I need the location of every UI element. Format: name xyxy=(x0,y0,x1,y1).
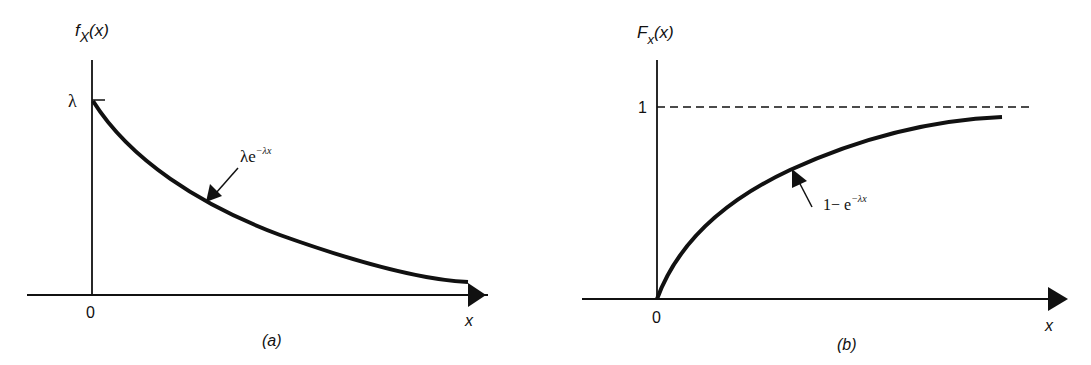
y-tick-label: 1 xyxy=(638,99,647,116)
caption: (a) xyxy=(262,332,282,349)
curve-label: λe−λx xyxy=(240,145,272,166)
y-tick-label: λ xyxy=(68,91,77,111)
annotation-arrowhead-icon xyxy=(792,169,807,188)
annotation-arrowhead-icon xyxy=(206,184,222,202)
y-axis-label: fX(x) xyxy=(75,21,109,45)
caption: (b) xyxy=(837,336,857,353)
annotation-arrow xyxy=(216,168,238,193)
x-axis-label: x xyxy=(464,312,474,329)
x-axis-arrow-icon xyxy=(1048,287,1068,311)
x-axis-arrow-icon xyxy=(468,283,486,307)
panel-a: fX(x) λ 0 x (a) λe−λx xyxy=(27,21,488,349)
origin-label: 0 xyxy=(652,309,661,326)
origin-label: 0 xyxy=(86,304,95,321)
y-axis-label: Fx(x) xyxy=(637,23,674,47)
panel-b: Fx(x) 1 0 x (b) 1− e−λx xyxy=(582,23,1068,353)
pdf-curve xyxy=(93,101,468,282)
figure: fX(x) λ 0 x (a) λe−λx Fx(x) 1 0 x (b) 1−… xyxy=(0,0,1091,365)
curve-label: 1− e−λx xyxy=(823,193,867,213)
x-axis-label: x xyxy=(1044,317,1054,334)
